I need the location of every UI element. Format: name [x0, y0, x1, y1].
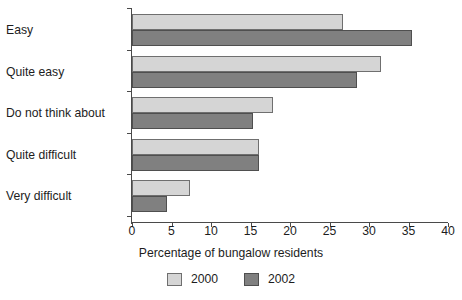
- x-tick-label: 5: [168, 224, 175, 238]
- y-tick-mark: [127, 133, 132, 134]
- x-axis-tick-labels: 0510152025303540: [132, 224, 448, 240]
- bar-2000: [132, 14, 343, 30]
- category-label: Easy: [6, 23, 122, 37]
- legend-label-2002: 2002: [268, 272, 295, 286]
- bar-2000: [132, 180, 190, 196]
- y-tick-mark: [127, 216, 132, 217]
- y-tick-mark: [127, 174, 132, 175]
- bar-2002: [132, 113, 253, 129]
- bar-2000: [132, 56, 381, 72]
- category-label: Very difficult: [6, 189, 122, 203]
- category-label: Quite difficult: [6, 148, 122, 162]
- x-tick-label: 15: [244, 224, 258, 238]
- x-tick-label: 10: [204, 224, 218, 238]
- legend-item-2002: 2002: [244, 272, 295, 286]
- plot-area: [132, 14, 448, 222]
- legend-swatch-icon-2000: [167, 273, 182, 286]
- bar-2002: [132, 155, 259, 171]
- x-tick-label: 0: [129, 224, 136, 238]
- category-label: Quite easy: [6, 65, 122, 79]
- bar-2000: [132, 97, 273, 113]
- x-tick-label: 35: [402, 224, 416, 238]
- category-axis-labels: EasyQuite easyDo not think aboutQuite di…: [0, 14, 126, 222]
- x-tick-label: 40: [441, 224, 455, 238]
- bar-2000: [132, 139, 259, 155]
- bar-2002: [132, 196, 167, 212]
- y-tick-mark: [127, 8, 132, 9]
- chart-legend: 2000 2002: [0, 272, 462, 286]
- x-tick-label: 20: [283, 224, 297, 238]
- x-tick-label: 25: [323, 224, 337, 238]
- bar-chart: EasyQuite easyDo not think aboutQuite di…: [0, 0, 462, 300]
- y-tick-mark: [127, 50, 132, 51]
- x-tick-label: 30: [362, 224, 376, 238]
- y-tick-mark: [127, 91, 132, 92]
- legend-swatch-icon-2002: [244, 273, 259, 286]
- bar-2002: [132, 72, 357, 88]
- legend-item-2000: 2000: [167, 272, 218, 286]
- bar-2002: [132, 30, 412, 46]
- legend-label-2000: 2000: [191, 272, 218, 286]
- x-axis-title: Percentage of bungalow residents: [0, 246, 462, 260]
- category-label: Do not think about: [6, 106, 122, 120]
